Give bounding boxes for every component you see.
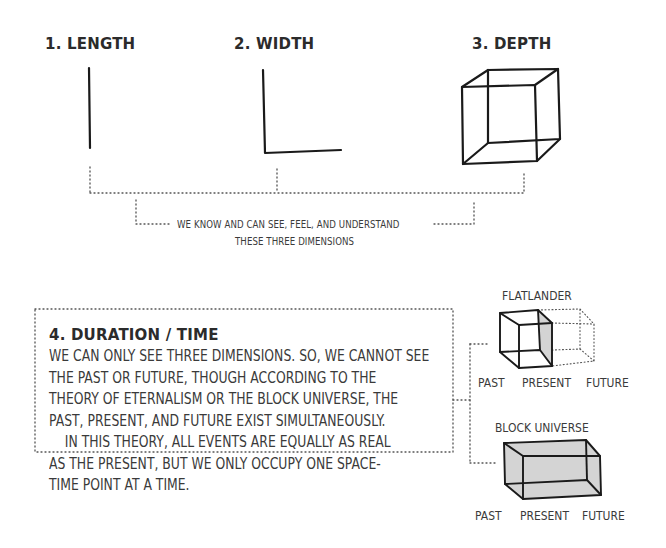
flatlander-axis-present: PRESENT — [522, 375, 571, 390]
duration-line: PAST, PRESENT, AND FUTURE EXIST SIMULTAN… — [49, 411, 429, 433]
duration-body: WE CAN ONLY SEE THREE DIMENSIONS. SO, WE… — [49, 346, 524, 497]
block-universe-title: BLOCK UNIVERSE — [495, 420, 589, 435]
depth-cube-icon — [462, 69, 560, 164]
flatlander-axis-past: PAST — [478, 375, 505, 390]
length-line-icon — [89, 68, 90, 148]
block-axis-present: PRESENT — [520, 508, 569, 523]
block-axis-past: PAST — [475, 508, 502, 523]
duration-line: THE PAST OR FUTURE, THOUGH ACCORDING TO … — [49, 368, 429, 390]
width-L-icon — [263, 70, 341, 153]
duration-line: WE CAN ONLY SEE THREE DIMENSIONS. SO, WE… — [49, 346, 429, 368]
bracket-caption-line2: THESE THREE DIMENSIONS — [235, 235, 354, 247]
block-axis-future: FUTURE — [582, 508, 625, 523]
duration-line: THEORY OF ETERNALISM OR THE BLOCK UNIVER… — [49, 389, 429, 411]
flatlander-title: FLATLANDER — [502, 288, 572, 303]
flatlander-axis-future: FUTURE — [586, 375, 629, 390]
duration-line: AS THE PRESENT, BUT WE ONLY OCCUPY ONE S… — [49, 454, 429, 476]
duration-title: 4. DURATION / TIME — [49, 326, 219, 344]
duration-line: TIME POINT AT A TIME. — [49, 475, 429, 497]
bracket-caption-line1: WE KNOW AND CAN SEE, FEEL, AND UNDERSTAN… — [177, 218, 399, 230]
caption-bracket-right — [434, 200, 474, 224]
caption-bracket-left — [136, 200, 172, 224]
duration-line: IN THIS THEORY, ALL EVENTS ARE EQUALLY A… — [49, 432, 429, 454]
